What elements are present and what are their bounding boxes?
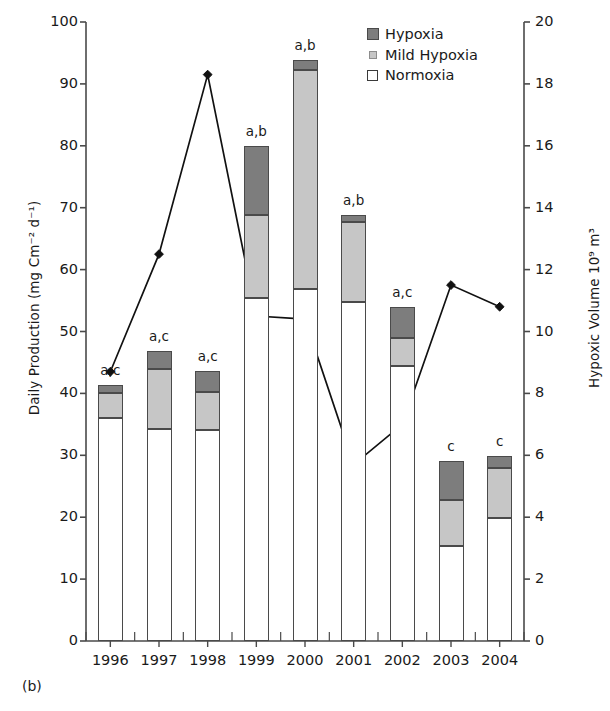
bar-segment-1997-mild-hypoxia [147,369,172,430]
open-square-icon [367,70,378,81]
annotation-1997: a,c [119,330,199,344]
y-axis-left-tick-70: 70 [20,200,78,215]
bar-segment-2002-normoxia [390,366,415,641]
bar-1999 [244,22,269,641]
bar-segment-2002-mild-hypoxia [390,338,415,366]
legend-label-mild-hypoxia: Mild Hypoxia [385,45,478,66]
y-axis-left-tick-100: 100 [20,14,78,29]
bar-2001 [341,22,366,641]
y-axis-right-tick-8: 8 [535,385,575,400]
x-axis-tick-2004: 2004 [470,653,530,668]
bar-segment-2000-mild-hypoxia [293,70,318,290]
y-axis-right-tick-0: 0 [535,633,575,648]
bar-2004 [487,22,512,641]
annotation-2002: a,c [362,286,442,300]
bar-segment-1996-normoxia [98,418,123,641]
y-axis-right-title: Hypoxic Volume 10⁹ m³ [586,188,602,428]
bar-segment-2003-mild-hypoxia [439,500,464,546]
y-axis-left-tick-80: 80 [20,138,78,153]
y-axis-right-tick-16: 16 [535,138,575,153]
y-axis-left-tick-40: 40 [20,385,78,400]
panel-label: (b) [22,678,42,694]
y-axis-left-tick-60: 60 [20,262,78,277]
bar-segment-2003-hypoxia [439,461,464,499]
bar-segment-1999-hypoxia [244,146,269,215]
chart-figure: Daily Production (mg Cm⁻² d⁻¹) Hypoxic V… [0,0,610,711]
legend-item-hypoxia: Hypoxia [367,24,478,45]
bar-segment-2003-normoxia [439,546,464,641]
bar-segment-2000-hypoxia [293,60,318,70]
annotation-1996: a,c [70,364,150,378]
bar-segment-1998-mild-hypoxia [195,392,220,430]
legend-item-normoxia: Normoxia [367,65,478,86]
y-axis-left-tick-30: 30 [20,447,78,462]
annotation-2000: a,b [265,39,345,53]
filled-square-dark-icon [367,28,379,40]
bar-segment-2004-mild-hypoxia [487,468,512,518]
bar-segment-1996-hypoxia [98,385,123,394]
legend-item-mild-hypoxia: Mild Hypoxia [367,45,478,66]
y-axis-right-tick-6: 6 [535,447,575,462]
y-axis-left-tick-90: 90 [20,76,78,91]
y-axis-right-tick-20: 20 [535,14,575,29]
bar-segment-2001-normoxia [341,302,366,641]
y-axis-right-tick-18: 18 [535,76,575,91]
y-axis-right-tick-4: 4 [535,509,575,524]
bar-segment-2004-hypoxia [487,456,512,468]
bar-segment-1998-hypoxia [195,371,220,392]
bar-segment-1998-normoxia [195,430,220,641]
annotation-2004: c [460,435,540,449]
filled-square-light-icon [369,51,377,59]
annotation-2001: a,b [314,194,394,208]
y-axis-left-tick-50: 50 [20,324,78,339]
legend-label-hypoxia: Hypoxia [385,24,444,45]
legend-label-normoxia: Normoxia [385,65,454,86]
legend: Hypoxia Mild Hypoxia Normoxia [367,24,478,86]
y-axis-right-tick-2: 2 [535,571,575,586]
annotation-1998: a,c [168,350,248,364]
bar-segment-2001-hypoxia [341,215,366,222]
bar-segment-2000-normoxia [293,289,318,641]
bar-segment-2002-hypoxia [390,307,415,338]
y-axis-left-tick-0: 0 [20,633,78,648]
bar-2003 [439,22,464,641]
bar-2000 [293,22,318,641]
y-axis-left-tick-20: 20 [20,509,78,524]
bar-segment-2004-normoxia [487,518,512,641]
y-axis-right-tick-10: 10 [535,324,575,339]
annotation-1999: a,b [216,125,296,139]
bar-segment-1997-normoxia [147,429,172,641]
bar-2002 [390,22,415,641]
bar-segment-1999-mild-hypoxia [244,215,269,299]
y-axis-right-tick-12: 12 [535,262,575,277]
bar-segment-1996-mild-hypoxia [98,393,123,418]
y-axis-left-tick-10: 10 [20,571,78,586]
y-axis-right-tick-14: 14 [535,200,575,215]
